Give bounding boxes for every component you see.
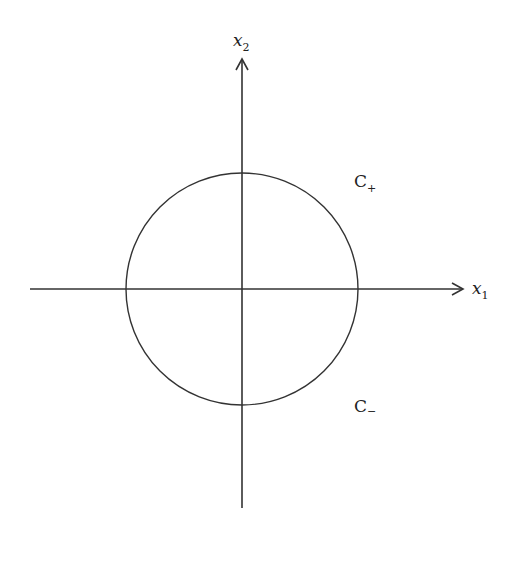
x1-axis-label: x1	[472, 278, 489, 302]
region-c-plus-label: C+	[354, 171, 376, 195]
x2-axis-label: x2	[233, 30, 250, 54]
diagram-canvas: x2 x1 C+ C−	[0, 0, 512, 565]
region-c-minus-label: C−	[354, 396, 376, 418]
